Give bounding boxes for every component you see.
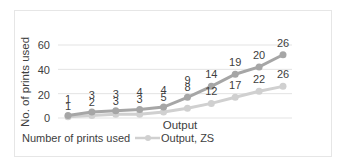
line-chart: 0 20 40 60 No. of prints used Output 113… [0, 0, 341, 165]
y-axis-label: No. of prints used [19, 37, 31, 127]
y-tick-0: 0 [44, 112, 50, 124]
data-label-series2: 12 [205, 85, 217, 97]
data-label-series2: 17 [229, 79, 241, 91]
data-label-series2: 3 [137, 93, 143, 105]
y-tick-60: 60 [38, 39, 50, 51]
data-label-series2: 1 [65, 100, 71, 112]
data-label-series2: 8 [184, 81, 190, 93]
series-number-of-prints-used-marker [184, 94, 191, 101]
series-number-of-prints-used-marker [112, 107, 119, 114]
series-number-of-prints-used-marker [136, 106, 143, 113]
data-label-series1: 26 [277, 37, 289, 49]
series-output-zs-marker [208, 100, 215, 107]
data-label-series2: 2 [89, 96, 95, 108]
series-number-of-prints-used-marker [65, 112, 72, 119]
series-number-of-prints-used-marker [88, 108, 95, 115]
series-number-of-prints-used-marker [256, 63, 263, 70]
legend-label-series2: Output, ZS [161, 132, 214, 144]
y-tick-40: 40 [38, 64, 50, 76]
y-tick-20: 20 [38, 89, 50, 101]
series-number-of-prints-used-marker [280, 51, 287, 58]
series-output-zs-marker [184, 105, 191, 112]
data-label-series2: 22 [253, 73, 265, 85]
data-label-series2: 5 [160, 91, 166, 103]
legend-label-series1: Number of prints used [22, 132, 130, 144]
series-number-of-prints-used-marker [232, 71, 239, 78]
series-number-of-prints-used-line [68, 55, 283, 116]
data-label-series2: 26 [277, 68, 289, 80]
x-axis-label: Output [163, 119, 198, 131]
series-output-zs-marker [280, 83, 287, 90]
series-output-zs-marker [232, 94, 239, 101]
legend-marker-series2 [145, 135, 151, 141]
series-lines [65, 51, 287, 120]
y-axis-ticks: 0 20 40 60 [38, 39, 50, 124]
data-label-series1: 20 [253, 49, 265, 61]
data-label-series1: 19 [229, 56, 241, 68]
data-label-series2: 3 [113, 95, 119, 107]
data-label-series1: 14 [205, 68, 217, 80]
series-output-zs-marker [256, 88, 263, 95]
series-number-of-prints-used-marker [160, 104, 167, 111]
legend: Number of prints used Output, ZS [22, 132, 214, 144]
